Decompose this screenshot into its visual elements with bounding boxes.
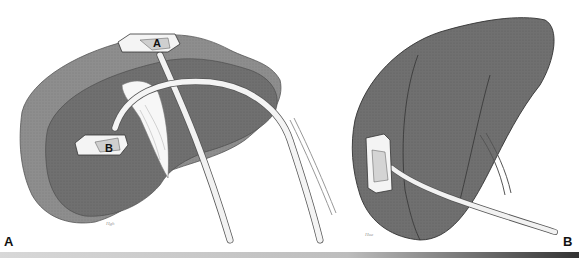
panel-label-a: A: [4, 234, 13, 249]
figure: A B Hgh: [0, 0, 579, 258]
svg-text:Hgh: Hgh: [105, 221, 115, 226]
liver-posterior-view: [352, 18, 554, 240]
svg-text:Hue: Hue: [364, 232, 374, 237]
panel-label-b: B: [563, 234, 572, 249]
liver-illustration: A B Hgh: [0, 0, 579, 258]
panel-a-illustration: A B Hgh: [20, 34, 320, 240]
probe-a: A: [118, 34, 180, 52]
panel-b-illustration: Hue: [290, 18, 555, 240]
probe-b: B: [75, 135, 128, 155]
probe-a-label: A: [153, 37, 161, 49]
probe: [366, 134, 392, 193]
bottom-rule: [0, 252, 579, 258]
probe-b-label: B: [105, 142, 113, 154]
